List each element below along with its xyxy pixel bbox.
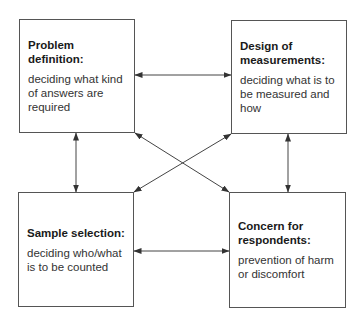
box-title: Problem definition: (28, 38, 126, 66)
box-description: deciding who/what is to be counted (27, 246, 125, 274)
box-title: Sample selection: (27, 226, 125, 240)
box-description: deciding what is to be measured and how (240, 73, 338, 115)
box-description: deciding what kind of answers are requir… (28, 72, 126, 114)
box-sample-selection: Sample selection: deciding who/what is t… (18, 192, 134, 307)
box-concern-for-respondents: Concern for respondents: prevention of h… (229, 192, 346, 308)
arrow-design-sample (134, 134, 231, 192)
box-description: prevention of harm or discomfort (238, 253, 337, 281)
box-title: Concern for respondents: (238, 219, 337, 247)
box-problem-definition: Problem definition: deciding what kind o… (19, 19, 135, 133)
box-title: Design of measurements: (240, 39, 338, 67)
box-design-of-measurements: Design of measurements: deciding what is… (231, 20, 347, 134)
